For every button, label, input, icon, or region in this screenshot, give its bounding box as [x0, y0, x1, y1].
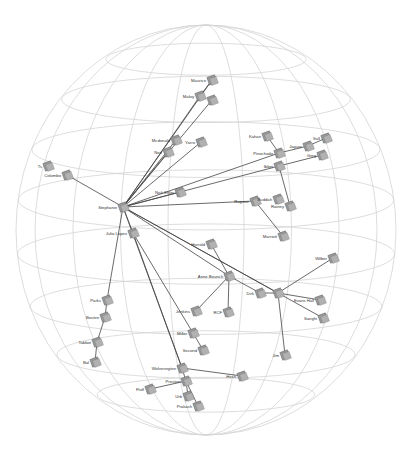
node-pinochado[interactable]: Pinochado — [253, 148, 285, 159]
node-label: Rajpour — [234, 199, 249, 204]
node-hub2[interactable] — [273, 288, 285, 299]
node-label: Pinochado — [253, 151, 273, 156]
node-boston[interactable]: Boston — [86, 312, 111, 323]
node-label: Nisk Ehler — [155, 190, 175, 195]
node-label: Marriott — [263, 234, 278, 239]
node-label: Fluff — [136, 387, 145, 392]
latitude-ring — [32, 122, 380, 178]
node-greg[interactable]: Greg — [307, 150, 329, 161]
node-second[interactable]: Second — [183, 345, 210, 356]
node-label: Kahan — [249, 134, 262, 139]
node-wolverington[interactable]: Wolverington — [152, 363, 189, 374]
node-bal[interactable]: Bal — [83, 357, 101, 368]
node-colombo[interactable]: Colombo — [44, 170, 73, 181]
node-parks[interactable]: Parks — [90, 295, 113, 306]
node-hirsh[interactable]: Hirsh — [226, 371, 248, 382]
node-label: Greg — [307, 153, 317, 158]
node-label: Sull — [313, 136, 320, 141]
node-label: Bal — [83, 360, 89, 365]
node-label: Evans Hall — [294, 298, 314, 303]
sphere-grid — [16, 25, 396, 435]
node-riddle[interactable]: Nisk Ehler — [155, 187, 187, 198]
node-label: Nett — [154, 150, 163, 155]
node-label: Urb — [175, 394, 182, 399]
node-label: Maloy — [183, 94, 195, 99]
latitude-ring — [106, 43, 306, 75]
node-fluff[interactable]: Fluff — [136, 384, 156, 395]
edge-anne-jenkins — [196, 276, 229, 311]
node-tabbot[interactable]: Tabbot — [78, 337, 103, 348]
node-label: Parks — [90, 298, 101, 303]
edge-stephanie-parks — [107, 207, 123, 300]
node-label: Hirsh — [226, 374, 236, 379]
node-kahan[interactable]: Kahan — [249, 131, 274, 142]
node-label: Jim — [272, 353, 279, 358]
node-jenkins[interactable]: Jenkins — [176, 306, 203, 317]
node-prakash[interactable]: Prakash — [177, 401, 205, 412]
node-label: Jenkins — [176, 309, 190, 314]
node-label: Wilber — [315, 256, 327, 261]
node-label: Boston — [86, 315, 100, 320]
node-label: Preston — [166, 379, 181, 384]
edge-harrold-anne — [211, 244, 229, 276]
node-label: RCF — [213, 310, 222, 315]
edge-stephanie-nett — [123, 152, 168, 207]
node-harrold[interactable]: Harrold — [191, 239, 217, 250]
node-label: Prakash — [177, 404, 193, 409]
node-label: Miller — [177, 331, 188, 336]
latitude-ring — [97, 377, 314, 412]
node-label: Harrold — [191, 242, 205, 247]
node-stephanie[interactable]: Stephanie — [98, 202, 129, 213]
node-miller[interactable]: Miller — [177, 328, 199, 339]
node-label: Stephanie — [98, 205, 118, 210]
node-rcf[interactable]: RCF — [213, 307, 234, 318]
node-label: Yarro — [185, 140, 196, 145]
edge-hub2-wilber — [278, 258, 333, 293]
node-label: Julia Lopez — [106, 231, 127, 236]
node-julia[interactable]: Julia Lopez — [106, 228, 140, 239]
node-label: Sanghi — [304, 316, 317, 321]
node-label: Anne Bounch — [198, 274, 224, 279]
node-sull[interactable]: Sull — [313, 133, 332, 144]
node-tr_small[interactable]: Ts — [38, 161, 55, 172]
node-label: Colombo — [44, 173, 61, 178]
edge-hub2-jim — [278, 293, 285, 355]
node-label: Second — [183, 348, 198, 353]
node-marriott[interactable]: Marriott — [263, 231, 290, 242]
node-label: Maurice — [191, 78, 207, 83]
node-label: Jaguar — [289, 144, 302, 149]
latitude-ring — [62, 76, 351, 122]
node-label: Dirk — [247, 291, 255, 296]
node-anne[interactable]: Anne Bounch — [198, 271, 236, 282]
node-label: Mcdonald — [152, 138, 171, 143]
node-ibbet[interactable]: Ibbet — [264, 161, 286, 172]
node-jim[interactable]: Jim — [272, 350, 291, 361]
node-label: Ibbet — [264, 164, 274, 169]
node-label: Buddah — [258, 197, 273, 202]
node-dirk[interactable]: Dirk — [247, 288, 267, 299]
node-maloy[interactable]: Maloy — [183, 91, 207, 102]
node-label: Rainey — [271, 204, 285, 209]
edge-julia-miller — [133, 233, 193, 333]
network-sphere-diagram: MauriceMaloyMcdonaldYarroNettKahanJaguar… — [0, 0, 415, 459]
node-label: Tabbot — [78, 340, 91, 345]
node-label: Ts — [38, 164, 42, 169]
node-label: Wolverington — [152, 366, 177, 371]
